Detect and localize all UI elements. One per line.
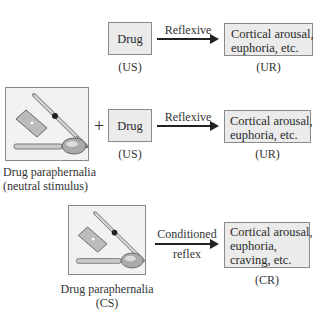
cs-caption-2: (CS) [57, 297, 157, 310]
cr-box: Cortical arousal, euphoria, craving, etc… [224, 222, 310, 268]
cr-caption: (CR) [224, 274, 310, 287]
ur2-line-2: euphoria, etc. [230, 128, 298, 142]
drug-paraphernalia-icon [6, 88, 90, 162]
ur-line-1: Cortical arousal, [231, 27, 314, 41]
ur2-line-1: Cortical arousal, [230, 114, 313, 128]
reflex-label: reflex [152, 248, 222, 261]
ur-line-2: euphoria, etc. [231, 41, 299, 55]
ur-box-2: Cortical arousal, euphoria, etc. [224, 110, 311, 143]
cs-caption-1: Drug paraphernalia [57, 283, 157, 296]
cr-line-3: craving, etc. [230, 253, 291, 267]
drug-us-box-2: Drug [108, 109, 152, 142]
neutral-caption-1: Drug paraphernalia [3, 166, 96, 179]
us-caption: (US) [108, 61, 152, 74]
drug-label: Drug [109, 32, 151, 46]
ur-caption: (UR) [224, 61, 313, 74]
paraphernalia-image-neutral [5, 87, 89, 161]
neutral-caption-2: (neutral stimulus) [3, 180, 88, 193]
drug-label-2: Drug [109, 119, 151, 133]
us-caption-2: (US) [108, 148, 152, 161]
ur-box: Cortical arousal, euphoria, etc. [224, 23, 313, 56]
reflexive-arrow [157, 38, 217, 40]
plus-sign: + [94, 117, 104, 135]
reflexive-arrow-2 [157, 125, 217, 127]
ur-caption-2: (UR) [224, 148, 311, 161]
cr-line-1: Cortical arousal, [230, 225, 313, 239]
drug-us-box: Drug [108, 22, 152, 55]
cr-line-2: euphoria, [230, 239, 277, 253]
paraphernalia-image-cs [68, 205, 146, 275]
drug-paraphernalia-icon [69, 206, 147, 276]
conditioned-arrow [155, 243, 217, 245]
